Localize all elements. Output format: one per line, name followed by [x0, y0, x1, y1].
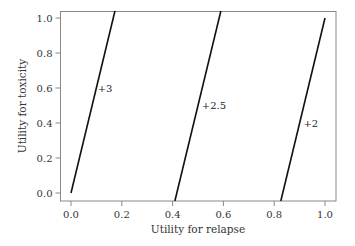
y-tick-label: 1.0: [37, 13, 53, 24]
x-tick-label: 0.2: [114, 209, 130, 220]
y-tick-label: 0.6: [37, 83, 53, 94]
y-axis-ticks: 0.00.20.40.60.81.0: [37, 13, 61, 199]
x-tick-label: 0.8: [266, 209, 282, 220]
chart: 0.00.20.40.60.81.0 0.00.20.40.60.81.0 +3…: [0, 0, 355, 246]
y-tick-label: 0.4: [37, 118, 53, 129]
x-tick-label: 0.4: [165, 209, 181, 220]
x-tick-label: 0.0: [63, 209, 79, 220]
x-tick-label: 1.0: [317, 209, 333, 220]
series-label: +2.5: [202, 100, 226, 111]
x-axis-ticks: 0.00.20.40.60.81.0: [63, 201, 333, 220]
series-lines: +3+2.5+2: [71, 11, 325, 201]
y-tick-label: 0.0: [37, 188, 53, 199]
series-label: +2: [303, 118, 318, 129]
y-axis-title: Utility for toxicity: [16, 59, 28, 153]
series-label: +3: [98, 83, 113, 94]
y-tick-label: 0.2: [37, 153, 53, 164]
x-axis-title: Utility for relapse: [151, 223, 245, 235]
series-line-2: [281, 18, 325, 201]
x-tick-label: 0.6: [215, 209, 231, 220]
series-line-3: [71, 11, 115, 193]
y-tick-label: 0.8: [37, 48, 53, 59]
